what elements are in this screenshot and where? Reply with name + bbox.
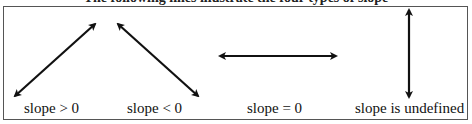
negative-slope-arrow — [118, 24, 198, 96]
positive-slope-arrow — [15, 24, 95, 96]
label-positive-slope: slope > 0 — [24, 100, 79, 117]
label-zero-slope: slope = 0 — [247, 100, 302, 117]
label-undefined-slope: slope is undefined — [355, 100, 464, 117]
label-negative-slope: slope < 0 — [127, 100, 182, 117]
